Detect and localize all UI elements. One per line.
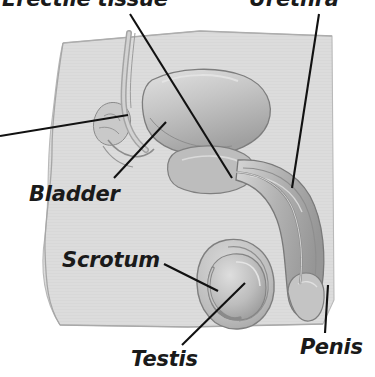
label-erectile-tissue: Erectile tissue (2, 0, 168, 10)
label-testis: Testis (131, 349, 198, 370)
anatomical-diagram-figure: Erectile tissue Urethra Bladder Scrotum … (0, 0, 375, 377)
label-bladder: Bladder (29, 184, 120, 205)
label-penis: Penis (300, 337, 363, 358)
label-scrotum: Scrotum (62, 250, 160, 271)
bladder-organ (142, 69, 270, 155)
label-urethra: Urethra (249, 0, 339, 10)
